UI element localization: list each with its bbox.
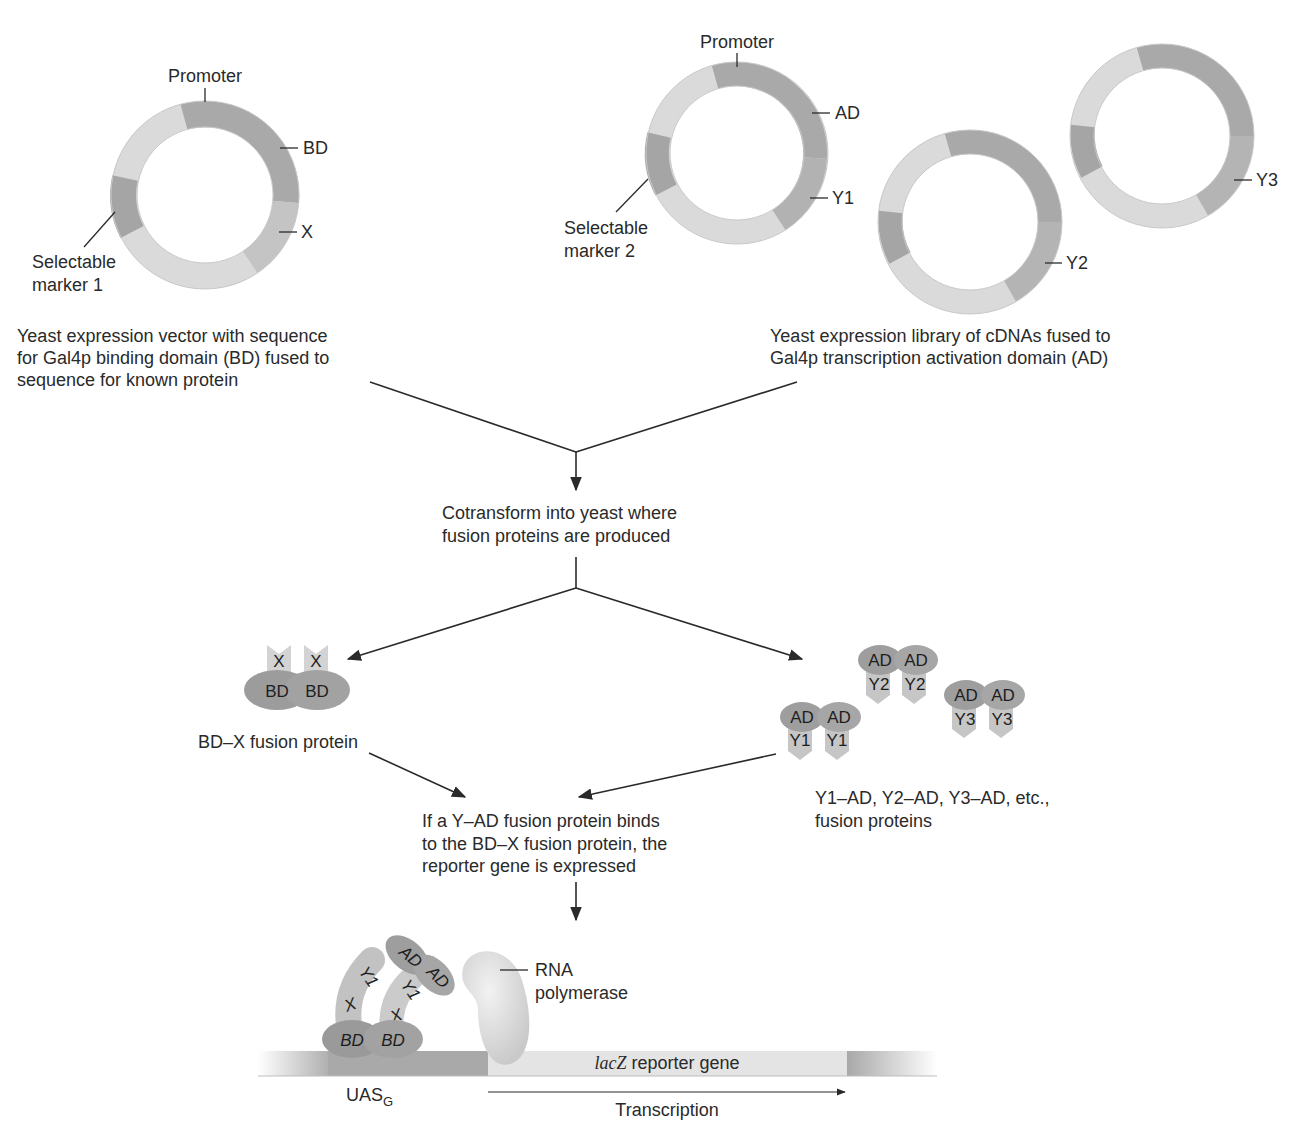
y3-segment [1202, 136, 1242, 205]
y1-label: Y1 [827, 731, 848, 750]
left-converge-line [370, 382, 576, 452]
promoter-label: Promoter [168, 66, 242, 86]
transcription-label: Transcription [615, 1100, 718, 1120]
y1-segment [779, 158, 815, 220]
arrow-bait-to-binding [369, 753, 465, 797]
bait-protein-caption: BD–X fusion protein [198, 732, 358, 752]
arrow-to-bait-protein [348, 588, 576, 659]
bait-caption-line1: Yeast expression vector with sequence [17, 326, 328, 346]
reporter-panel: X Y1 X Y1 AD AD BD BD RNA polymerase lac… [258, 927, 937, 1120]
x-label: X [301, 222, 313, 242]
dna-left-fade [258, 1051, 328, 1076]
lacz-italic: lacZ [594, 1053, 627, 1073]
promoter-label: Promoter [700, 32, 774, 52]
arrow-to-prey-proteins [576, 588, 802, 659]
ad-label: AD [868, 651, 892, 670]
ad-label: AD [991, 686, 1015, 705]
y2-ad-protein: AD AD Y2 Y2 [858, 645, 938, 704]
uas-main: UAS [346, 1085, 383, 1105]
marker-1-segment [123, 178, 132, 232]
polymerase-label-line2: polymerase [535, 983, 628, 1003]
uas-label: UASG [346, 1085, 393, 1109]
y2-label: Y2 [869, 675, 890, 694]
y3-label: Y3 [955, 710, 976, 729]
marker-2-label-line2: marker 2 [564, 241, 635, 261]
complex-bd-left: BD [340, 1031, 364, 1050]
ring-inner-edge [902, 154, 1038, 290]
dna-right-fade [847, 1051, 937, 1076]
bait-caption-line2: for Gal4p binding domain (BD) fused to [17, 348, 329, 368]
y2-label: Y2 [1066, 253, 1088, 273]
ad-label: AD [904, 651, 928, 670]
library-caption-line1: Yeast expression library of cDNAs fused … [770, 326, 1111, 346]
cotransform-caption-line2: fusion proteins are produced [442, 526, 670, 546]
ring-inner-edge [670, 86, 804, 220]
bait-caption-line3: sequence for known protein [17, 370, 238, 390]
arrow-prey-to-binding [579, 754, 776, 797]
library-caption-line2: Gal4p transcription activation domain (A… [770, 348, 1108, 368]
marker-1-label-line1: Selectable [32, 252, 116, 272]
marker-2-segment [657, 135, 666, 190]
library-plasmid-y3: Y3 [1070, 44, 1278, 228]
bd-label: BD [303, 138, 328, 158]
ad-label: AD [835, 103, 860, 123]
marker-1-label-line2: marker 1 [32, 275, 103, 295]
bd-label-left: BD [265, 682, 289, 701]
bait-plasmid: Promoter BD X Selectable marker 1 [32, 66, 328, 295]
ad-label: AD [790, 708, 814, 727]
binding-caption-line2: to the BD–X fusion protein, the [422, 834, 667, 854]
ad-label: AD [954, 686, 978, 705]
marker-1-pointer [84, 212, 115, 247]
y3-label: Y3 [1256, 170, 1278, 190]
marker-2-label-line1: Selectable [564, 218, 648, 238]
rna-polymerase [462, 951, 529, 1064]
marker-segment [891, 212, 900, 258]
bd-label-right: BD [305, 682, 329, 701]
marker-segment [1083, 126, 1092, 172]
yeast-two-hybrid-diagram: Promoter BD X Selectable marker 1 Yeast … [0, 0, 1312, 1138]
y1-ad-protein: AD AD Y1 Y1 [780, 702, 861, 760]
x-label-left: X [273, 652, 284, 671]
x-label-right: X [310, 652, 321, 671]
y2-label: Y2 [905, 675, 926, 694]
y2-segment [1010, 222, 1050, 291]
uas-sub: G [383, 1094, 393, 1109]
cotransform-caption-line1: Cotransform into yeast where [442, 503, 677, 523]
library-plasmid-y2: Y2 [878, 130, 1088, 314]
right-converge-line [576, 382, 797, 452]
library-plasmid-y1: Promoter AD Y1 Selectable marker 2 [564, 32, 860, 261]
marker-2-pointer [616, 179, 648, 212]
y3-label: Y3 [992, 710, 1013, 729]
prey-caption-line1: Y1–AD, Y2–AD, Y3–AD, etc., [815, 788, 1049, 808]
y1-label: Y1 [832, 188, 854, 208]
prey-caption-line2: fusion proteins [815, 811, 932, 831]
polymerase-label-line1: RNA [535, 960, 573, 980]
binding-caption-line1: If a Y–AD fusion protein binds [422, 811, 660, 831]
complex-bd-right: BD [381, 1031, 405, 1050]
y1-label: Y1 [790, 731, 811, 750]
binding-caption-line3: reporter gene is expressed [422, 856, 636, 876]
ring-inner-edge [1094, 68, 1230, 204]
lacz-rest: reporter gene [626, 1053, 739, 1073]
y3-ad-protein: AD AD Y3 Y3 [944, 680, 1025, 738]
bd-x-fusion-protein: X X BD BD [244, 645, 350, 710]
ad-label: AD [827, 708, 851, 727]
ring-inner-edge [137, 127, 273, 263]
lacz-label: lacZ reporter gene [594, 1053, 739, 1073]
